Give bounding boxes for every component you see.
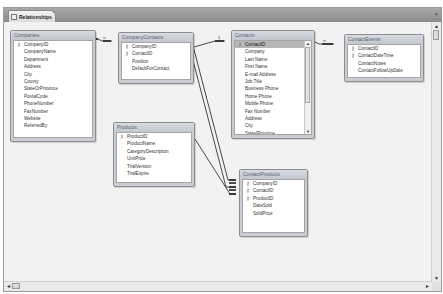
table-products[interactable]: Products ⚷ProductID ProductName Category… bbox=[113, 122, 195, 187]
field-job-title[interactable]: Job Title bbox=[235, 78, 311, 85]
field-unitprice[interactable]: UnitPrice bbox=[117, 155, 191, 162]
svg-text:∞: ∞ bbox=[323, 38, 326, 43]
field-contactid[interactable]: ⚷ContactID bbox=[122, 50, 190, 57]
field-contactnotes[interactable]: ContactNotes bbox=[348, 60, 420, 67]
field-productname[interactable]: ProductName bbox=[117, 140, 191, 147]
field-business-phone[interactable]: Business Phone bbox=[235, 85, 311, 92]
vertical-scroll-thumb[interactable] bbox=[433, 30, 439, 40]
field-email-address[interactable]: E-mail Address bbox=[235, 71, 311, 78]
key-icon: ⚷ bbox=[246, 195, 250, 202]
field-contactid[interactable]: ⚷ContactID bbox=[235, 41, 311, 48]
scroll-down-icon[interactable]: ▼ bbox=[306, 129, 310, 134]
table-contactevents[interactable]: ContactEvents ⚷ContactID ⚷ContactDateTim… bbox=[344, 34, 424, 82]
table-companies[interactable]: Companies ⚷CompanyID CompanyName Departm… bbox=[10, 30, 96, 142]
key-icon: ⚷ bbox=[246, 180, 250, 187]
field-website[interactable]: Website bbox=[14, 115, 92, 122]
field-list: ⚷CompanyID ⚷ContactID Position DefaultFo… bbox=[121, 42, 191, 80]
field-companyname[interactable]: CompanyName bbox=[14, 48, 92, 55]
field-contactfollowupdate[interactable]: ContactFollowUpDate bbox=[348, 67, 420, 74]
field-trialversion[interactable]: TrialVersion bbox=[117, 163, 191, 170]
key-icon: ⚷ bbox=[238, 41, 242, 48]
field-address[interactable]: Address bbox=[14, 63, 92, 70]
rel-products-contactproducts bbox=[188, 139, 236, 194]
table-contactproducts[interactable]: ContactProducts ⚷CompanyID ⚷ContactID ⚷P… bbox=[239, 169, 308, 237]
tab-label: Relationships bbox=[19, 14, 52, 20]
field-last-name[interactable]: Last Name bbox=[235, 56, 311, 63]
field-companyid[interactable]: ⚷CompanyID bbox=[122, 43, 190, 50]
key-icon: ⚷ bbox=[125, 50, 129, 57]
field-trialexpire[interactable]: TrialExpire bbox=[117, 170, 191, 177]
table-contacts[interactable]: Contacts ⚷ContactID Company Last Name Fi… bbox=[231, 30, 315, 139]
key-icon: ⚷ bbox=[120, 133, 124, 140]
scroll-right-icon[interactable]: ► bbox=[425, 283, 430, 289]
horizontal-scroll-thumb[interactable] bbox=[12, 283, 20, 289]
table-title: Products bbox=[114, 123, 194, 132]
field-list: ⚷ContactID Company Last Name First Name … bbox=[234, 40, 312, 135]
table-title: CompanyContacts bbox=[119, 33, 193, 42]
field-state-province[interactable]: State/Province bbox=[235, 130, 311, 135]
field-city[interactable]: City bbox=[235, 122, 311, 129]
vertical-scrollbar[interactable]: ▲ ▼ bbox=[431, 22, 441, 282]
table-title: ContactProducts bbox=[240, 170, 307, 179]
field-phonenumber[interactable]: PhoneNumber bbox=[14, 100, 92, 107]
relationships-tab-icon bbox=[11, 14, 17, 20]
field-position[interactable]: Position bbox=[122, 58, 190, 65]
field-company[interactable]: Company bbox=[235, 48, 311, 55]
field-defaultforcontact[interactable]: DefaultForContact bbox=[122, 65, 190, 72]
svg-text:1: 1 bbox=[218, 35, 221, 40]
scroll-left-icon[interactable]: ◄ bbox=[6, 283, 11, 289]
key-icon: ⚷ bbox=[125, 43, 129, 50]
field-first-name[interactable]: First Name bbox=[235, 63, 311, 70]
tab-relationships[interactable]: Relationships bbox=[8, 10, 56, 22]
field-list: ⚷CompanyID CompanyName Department Addres… bbox=[13, 40, 93, 138]
scroll-thumb[interactable] bbox=[305, 47, 310, 103]
scroll-up-icon[interactable]: ▲ bbox=[306, 41, 310, 46]
field-fax-number[interactable]: Fax Number bbox=[235, 108, 311, 115]
key-icon: ⚷ bbox=[17, 41, 21, 48]
field-contactid[interactable]: ⚷ContactID bbox=[243, 187, 304, 194]
field-productid[interactable]: ⚷ProductID bbox=[243, 195, 304, 202]
svg-text:∞: ∞ bbox=[103, 35, 106, 40]
field-city[interactable]: City bbox=[14, 71, 92, 78]
key-icon: ⚷ bbox=[351, 45, 355, 52]
field-faxnumber[interactable]: FaxNumber bbox=[14, 108, 92, 115]
relationships-window: Relationships × bbox=[3, 7, 442, 292]
field-county[interactable]: County bbox=[14, 78, 92, 85]
table-companycontacts[interactable]: CompanyContacts ⚷CompanyID ⚷ContactID Po… bbox=[118, 32, 194, 84]
scroll-up-icon[interactable]: ▲ bbox=[434, 23, 439, 29]
horizontal-scrollbar[interactable]: ◄ ► bbox=[4, 281, 432, 291]
field-postalcode[interactable]: PostalCode bbox=[14, 93, 92, 100]
field-department[interactable]: Department bbox=[14, 56, 92, 63]
field-companyid[interactable]: ⚷CompanyID bbox=[243, 180, 304, 187]
scroll-down-icon[interactable]: ▼ bbox=[434, 275, 439, 281]
field-datesold[interactable]: DateSold bbox=[243, 202, 304, 209]
table-title: ContactEvents bbox=[345, 35, 423, 44]
field-contactdatetime[interactable]: ⚷ContactDateTime bbox=[348, 52, 420, 59]
field-soldprice[interactable]: SoldPrice bbox=[243, 210, 304, 217]
field-list: ⚷CompanyID ⚷ContactID ⚷ProductID DateSol… bbox=[242, 179, 305, 233]
field-categorydescription[interactable]: CategoryDescription bbox=[117, 148, 191, 155]
field-home-phone[interactable]: Home Phone bbox=[235, 93, 311, 100]
field-contactid[interactable]: ⚷ContactID bbox=[348, 45, 420, 52]
document-tab-bar: Relationships × bbox=[4, 8, 441, 22]
key-icon: ⚷ bbox=[351, 52, 355, 59]
field-address[interactable]: Address bbox=[235, 115, 311, 122]
table-scrollbar[interactable]: ▲ ▼ bbox=[304, 41, 311, 134]
relationships-canvas: 1 ∞ 1 ∞ 1 ∞ 1 Companies ⚷CompanyID Compa… bbox=[4, 22, 432, 282]
key-icon: ⚷ bbox=[246, 187, 250, 194]
table-title: Contacts bbox=[232, 31, 314, 40]
field-stateorprovince[interactable]: StateOrProvince bbox=[14, 85, 92, 92]
scrollbar-corner bbox=[432, 282, 441, 291]
field-referredby[interactable]: ReferredBy bbox=[14, 122, 92, 129]
table-title: Companies bbox=[11, 31, 95, 40]
field-productid[interactable]: ⚷ProductID bbox=[117, 133, 191, 140]
field-mobile-phone[interactable]: Mobile Phone bbox=[235, 100, 311, 107]
close-icon[interactable]: × bbox=[434, 11, 438, 17]
field-list: ⚷ProductID ProductName CategoryDescripti… bbox=[116, 132, 192, 183]
field-list: ⚷ContactID ⚷ContactDateTime ContactNotes… bbox=[347, 44, 421, 78]
field-companyid[interactable]: ⚷CompanyID bbox=[14, 41, 92, 48]
